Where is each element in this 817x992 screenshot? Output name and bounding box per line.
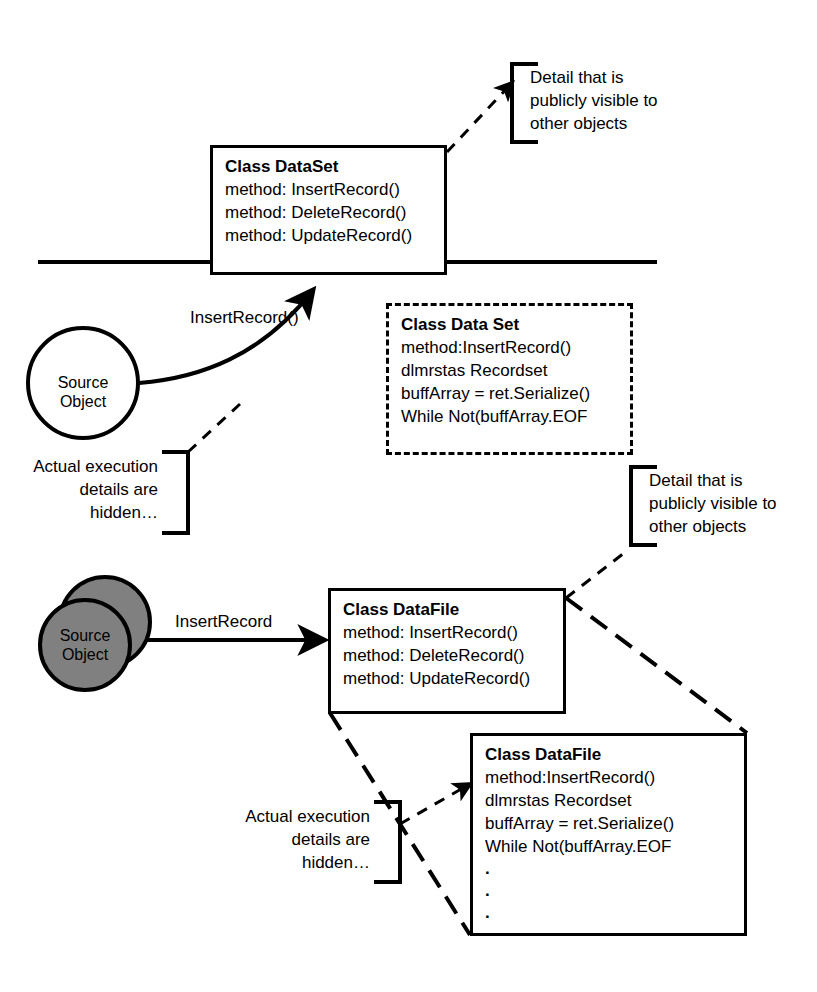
class-dataset-detail-title: Class Data Set — [401, 314, 626, 336]
lower-hidden-detail-callout: Actual execution details are hidden… — [212, 805, 370, 874]
lower-source-object-line-1: Object — [35, 645, 135, 664]
lower-public-detail-line-2: other objects — [649, 515, 777, 538]
lower-hidden-detail-bracket — [374, 802, 400, 882]
diagram-canvas: Class DataSet method: InsertRecord() met… — [0, 0, 817, 992]
class-dataset-detail-box[interactable]: Class Data Set method:InsertRecord() dlm… — [386, 303, 633, 455]
class-datafile-member-2: method: UpdateRecord() — [343, 667, 559, 690]
upper-message-label: InsertRecord() — [190, 308, 299, 328]
lower-hidden-detail-line-0: Actual execution — [212, 805, 370, 828]
upper-public-detail-line-2: other objects — [530, 112, 658, 135]
upper-hidden-detail-bracket — [162, 452, 188, 533]
upper-hidden-detail-line-2: hidden… — [0, 501, 158, 524]
upper-source-object-label: Source Object — [33, 373, 133, 411]
lower-message-label: InsertRecord — [175, 612, 272, 632]
class-datafile-member-1: method: DeleteRecord() — [343, 644, 559, 667]
upper-public-detail-leader — [447, 83, 512, 152]
class-datafile-detail-dot-2: . — [485, 902, 740, 924]
class-datafile-box[interactable]: Class DataFile method: InsertRecord() me… — [328, 588, 566, 714]
lower-source-object-line-0: Source — [35, 626, 135, 645]
lower-hidden-detail-line-2: hidden… — [212, 851, 370, 874]
class-datafile-detail-line-1: dlmrstas Recordset — [485, 789, 740, 812]
upper-message-arrow — [139, 290, 313, 383]
upper-public-detail-line-1: publicly visible to — [530, 89, 658, 112]
class-datafile-detail-box[interactable]: Class DataFile method:InsertRecord() dlm… — [470, 733, 747, 936]
class-datafile-member-0: method: InsertRecord() — [343, 621, 559, 644]
lower-hidden-detail-line-1: details are — [212, 828, 370, 851]
lower-hidden-detail-leader — [400, 784, 470, 824]
upper-hidden-detail-line-1: details are — [0, 478, 158, 501]
class-dataset-member-2: method: UpdateRecord() — [225, 224, 440, 247]
class-datafile-detail-line-0: method:InsertRecord() — [485, 766, 740, 789]
class-datafile-title: Class DataFile — [343, 599, 559, 621]
lower-zoom-line-top — [566, 598, 747, 733]
lower-source-object-label: Source Object — [35, 626, 135, 664]
class-dataset-detail-line-2: buffArray = ret.Serialize() — [401, 382, 626, 405]
class-dataset-detail-line-0: method:InsertRecord() — [401, 336, 626, 359]
class-datafile-detail-line-2: buffArray = ret.Serialize() — [485, 812, 740, 835]
lower-public-detail-line-0: Detail that is — [649, 469, 777, 492]
lower-public-detail-leader — [566, 550, 628, 598]
class-dataset-member-1: method: DeleteRecord() — [225, 201, 440, 224]
upper-public-detail-line-0: Detail that is — [530, 66, 658, 89]
class-dataset-member-0: method: InsertRecord() — [225, 178, 440, 201]
class-dataset-title: Class DataSet — [225, 156, 440, 178]
upper-public-detail-callout: Detail that is publicly visible to other… — [530, 66, 658, 135]
class-dataset-box[interactable]: Class DataSet method: InsertRecord() met… — [210, 145, 447, 275]
upper-source-object-line-0: Source — [33, 373, 133, 392]
lower-public-detail-callout: Detail that is publicly visible to other… — [649, 469, 777, 538]
class-dataset-detail-line-1: dlmrstas Recordset — [401, 359, 626, 382]
upper-hidden-detail-leader — [188, 404, 240, 452]
upper-hidden-detail-line-0: Actual execution — [0, 455, 158, 478]
class-dataset-detail-line-3: While Not(buffArray.EOF — [401, 405, 626, 428]
lower-public-detail-line-1: publicly visible to — [649, 492, 777, 515]
upper-source-object-line-1: Object — [33, 392, 133, 411]
class-datafile-detail-dot-0: . — [485, 858, 740, 880]
upper-hidden-detail-callout: Actual execution details are hidden… — [0, 455, 158, 524]
class-datafile-detail-dot-1: . — [485, 880, 740, 902]
class-datafile-detail-line-3: While Not(buffArray.EOF — [485, 835, 740, 858]
class-datafile-detail-title: Class DataFile — [485, 744, 740, 766]
